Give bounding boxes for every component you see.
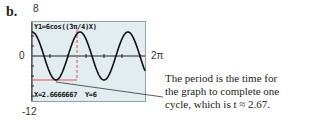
caption-text: The period is the time for the graph to … xyxy=(165,72,286,111)
trace-status: X=2.6666667 Y=6 xyxy=(34,91,97,99)
equation-label: Y1=6cos((3π/4)X) xyxy=(34,23,97,31)
